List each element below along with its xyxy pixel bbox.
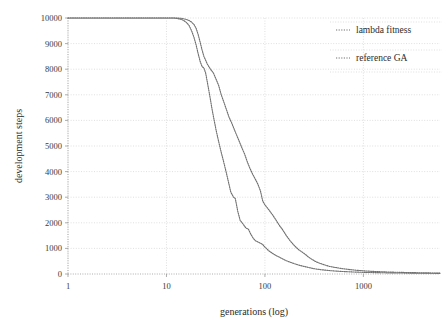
x-tick-label-1000: 1000 <box>355 281 372 291</box>
y-tick-label-10000: 10000 <box>41 13 62 23</box>
y-tick-label-1000: 1000 <box>45 243 62 253</box>
legend-label-reference-ga: reference GA <box>356 53 408 63</box>
x-tick-label-10: 10 <box>162 281 171 291</box>
legend-label-lambda-fitness: lambda fitness <box>356 25 411 35</box>
x-tick-label-1: 1 <box>66 281 70 291</box>
y-axis-tick-labels: 0100020003000400050006000700080009000100… <box>41 13 62 279</box>
y-tick-label-5000: 5000 <box>45 141 62 151</box>
y-tick-label-8000: 8000 <box>45 64 62 74</box>
y-tick-label-2000: 2000 <box>45 218 62 228</box>
development-steps-vs-generations-chart: 0100020003000400050006000700080009000100… <box>0 0 444 334</box>
x-axis-title: generations (log) <box>220 306 288 318</box>
chart-figure: 0100020003000400050006000700080009000100… <box>0 0 444 334</box>
y-tick-label-0: 0 <box>58 269 62 279</box>
y-tick-label-7000: 7000 <box>45 90 62 100</box>
y-tick-label-6000: 6000 <box>45 115 62 125</box>
y-tick-label-9000: 9000 <box>45 39 62 49</box>
x-tick-label-100: 100 <box>259 281 272 291</box>
x-axis-tick-labels: 1101001000 <box>66 281 372 291</box>
y-tick-label-3000: 3000 <box>45 192 62 202</box>
y-axis-title: development steps <box>13 109 24 183</box>
chart-legend: lambda fitnessreference GA <box>330 22 442 72</box>
y-tick-label-4000: 4000 <box>45 167 62 177</box>
